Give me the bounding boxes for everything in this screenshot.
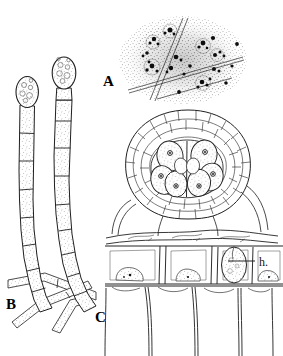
panel-label-b: B (6, 297, 16, 312)
illustration-canvas (0, 0, 283, 356)
figure-plate: A B C h. (0, 0, 283, 356)
panel-label-c: C (95, 310, 106, 325)
panel-label-a: A (103, 74, 114, 89)
panel-a-group (119, 16, 247, 104)
panel-b-terminal-spore-left (16, 77, 38, 108)
panel-c-haustorium (222, 247, 247, 283)
panel-a-stipple-cloud (119, 16, 247, 104)
panel-b-terminal-spore-right (52, 57, 76, 89)
panel-c-aecium (126, 110, 251, 219)
panel-c-epidermis (105, 245, 283, 285)
haustorium-label: h. (259, 256, 268, 268)
